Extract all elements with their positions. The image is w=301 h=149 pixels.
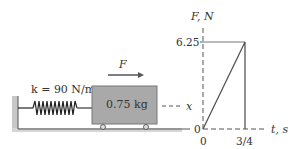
x-axis-label: t, s: [271, 123, 288, 136]
x-tick-0: 0: [200, 135, 207, 147]
spring: [18, 101, 92, 115]
x-tick-3-4: 3/4: [236, 135, 253, 147]
spring-constant-label: k = 90 N/m: [31, 83, 96, 96]
mass-label: 0.75 kg: [106, 98, 148, 111]
y-axis-label: F, N: [190, 10, 214, 23]
force-arrow-icon: [108, 72, 144, 78]
force-label: F: [118, 58, 127, 71]
force-curve: [203, 42, 245, 129]
spring-mass-diagram: k = 90 N/m 0.75 kg F x F, N t, s 6.25 0 …: [0, 0, 301, 149]
position-label: x: [186, 100, 193, 113]
y-tick-0: 0: [194, 123, 201, 135]
y-tick-6.25: 6.25: [176, 36, 199, 48]
